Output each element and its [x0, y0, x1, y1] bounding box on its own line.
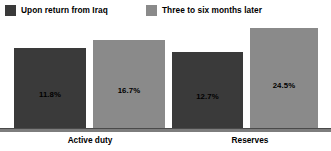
legend-swatch-icon-0 [5, 5, 16, 16]
legend-label-1: Three to six months later [162, 5, 262, 15]
bar-reserves-three-to-six: 24.5% [250, 28, 318, 129]
category-axis-labels: Active duty Reserves [0, 133, 331, 151]
plot-area: 11.8% 16.7% 12.7% 24.5% [0, 22, 331, 129]
legend-swatch-icon-1 [146, 5, 157, 16]
bar-active-duty-upon-return: 11.8% [14, 48, 86, 129]
legend-item-upon-return: Upon return from Iraq [5, 3, 108, 17]
bar-active-duty-three-to-six: 16.7% [93, 40, 165, 129]
bar-value-label-2: 12.7% [172, 92, 243, 101]
bar-value-label-1: 16.7% [93, 86, 165, 95]
legend-label-0: Upon return from Iraq [21, 5, 108, 15]
legend-item-three-to-six-months: Three to six months later [146, 3, 262, 17]
x-axis-baseline-edge [0, 128, 331, 129]
bar-chart: Upon return from Iraq Three to six month… [0, 0, 331, 151]
category-label-reserves: Reserves [190, 135, 310, 145]
category-label-active-duty: Active duty [30, 135, 150, 145]
chart-legend: Upon return from Iraq Three to six month… [0, 0, 331, 22]
bar-reserves-upon-return: 12.7% [172, 52, 243, 129]
bar-value-label-0: 11.8% [14, 90, 86, 99]
bar-value-label-3: 24.5% [250, 81, 318, 90]
